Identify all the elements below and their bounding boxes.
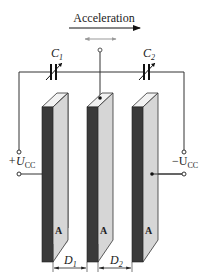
- d2-label: D2: [109, 253, 123, 269]
- middle-terminal: [98, 48, 102, 52]
- c1-label: C1: [51, 46, 63, 62]
- c2-label: C2: [143, 46, 155, 62]
- left-plate: A: [42, 93, 68, 262]
- plus-ucc-bottom-terminal: [17, 172, 21, 176]
- right-plate: A: [132, 93, 158, 262]
- minus-ucc-label: −UCC: [172, 154, 198, 170]
- d1-label: D1: [63, 253, 77, 269]
- acceleration-label: Acceleration: [73, 11, 134, 25]
- right-plate-dot: [150, 172, 154, 176]
- minus-ucc-bottom-terminal: [182, 172, 186, 176]
- middle-plate-contact: [98, 96, 102, 100]
- plate-a-label-2: A: [100, 225, 108, 236]
- capacitive-accelerometer-diagram: Acceleration C1 C2 +UCC −UCC: [0, 0, 208, 280]
- plate-a-label-3: A: [145, 225, 153, 236]
- plus-ucc-label: +UCC: [8, 154, 35, 170]
- middle-plate: A: [87, 93, 113, 262]
- plate-a-label-1: A: [55, 225, 63, 236]
